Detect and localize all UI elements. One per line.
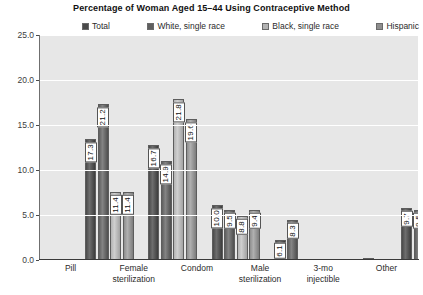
x-axis-labels: PillFemalesterilizationCondomMalesterili…	[39, 263, 418, 293]
bar[interactable]: 16.7	[148, 145, 159, 260]
x-axis-category-label: Condom	[165, 263, 228, 274]
legend-item[interactable]: Black, single race	[262, 22, 339, 31]
x-axis-label-line: sterilization	[229, 274, 292, 285]
x-axis-category-label: Malesterilization	[229, 263, 292, 284]
bar-value-label: 11.4	[122, 195, 134, 215]
bar[interactable]: 8.8	[237, 216, 248, 260]
x-axis-label-line: Male	[229, 263, 292, 274]
gridline	[39, 125, 418, 126]
bar[interactable]: 21.2	[98, 104, 109, 260]
bar-value-label: 14.9	[160, 164, 172, 184]
x-axis-label-line: 3-mo	[292, 263, 355, 274]
x-axis-label-line: Pill	[39, 263, 102, 274]
x-axis-label-line: sterilization	[102, 274, 165, 285]
legend-swatch-icon	[376, 23, 383, 30]
bar[interactable]: 14.9	[161, 161, 172, 260]
chart-title: Percentage of Woman Aged 15–44 Using Con…	[0, 3, 423, 13]
y-axis-tick-label: 10.0	[0, 165, 34, 175]
bar-value-label: 16.7	[148, 148, 160, 168]
bar-value-label: 11.4	[110, 195, 122, 215]
bar[interactable]: 17.3	[85, 139, 96, 260]
bar-group: 2.01.44.12.6	[331, 70, 394, 260]
bar-chart: Percentage of Woman Aged 15–44 Using Con…	[0, 0, 423, 295]
bar-value-label: 8.8	[236, 219, 248, 235]
legend-item[interactable]: Total	[82, 22, 110, 31]
bar[interactable]: 9.5	[414, 210, 418, 261]
bar-group: 16.714.921.819.6	[141, 70, 204, 260]
bar[interactable]: 9.5	[224, 210, 235, 261]
bar-value-label: 6.1	[274, 243, 286, 259]
gridline	[39, 35, 418, 36]
y-axis-tick-label: 20.0	[0, 75, 34, 85]
legend-item[interactable]: Hispanic	[376, 22, 419, 31]
bar[interactable]: 9.4	[249, 210, 260, 260]
bar-value-label: 9.7	[401, 211, 413, 227]
bar[interactable]: 8.3	[287, 220, 298, 260]
x-axis-category-label: Other	[355, 263, 418, 274]
bar[interactable]: 6.1	[275, 240, 286, 260]
legend-label: Hispanic	[386, 22, 419, 31]
gridline	[39, 80, 418, 81]
x-axis-category-label: Pill	[39, 263, 102, 274]
y-axis-tick	[36, 260, 39, 261]
legend-swatch-icon	[262, 23, 269, 30]
legend-swatch-icon	[147, 23, 154, 30]
chart-legend: TotalWhite, single raceBlack, single rac…	[82, 22, 419, 31]
x-axis-label-line: Condom	[165, 263, 228, 274]
bar-value-label: 21.8	[173, 102, 185, 122]
bar[interactable]: 10.0	[212, 205, 223, 260]
bar[interactable]: 11.4	[123, 192, 134, 260]
plot-area: 17.321.211.411.416.714.921.819.610.09.58…	[39, 35, 418, 260]
legend-label: Total	[92, 22, 110, 31]
bar-value-label: 17.3	[85, 142, 97, 162]
bar-group: 9.79.57.211.6	[394, 70, 418, 260]
bar[interactable]: 19.6	[186, 119, 197, 260]
bar-groups: 17.321.211.411.416.714.921.819.610.09.58…	[78, 70, 418, 260]
x-axis-category-label: 3-moinjectible	[292, 263, 355, 284]
x-axis-category-label: Femalesterilization	[102, 263, 165, 284]
x-axis-label-line: Female	[102, 263, 165, 274]
bar[interactable]: 11.4	[110, 192, 121, 260]
bar-group: 6.18.31.13.4	[268, 70, 331, 260]
bar-group: 10.09.58.89.4	[204, 70, 267, 260]
y-axis-tick-label: 5.0	[0, 210, 34, 220]
y-axis-tick-label: 15.0	[0, 120, 34, 130]
gridline	[39, 170, 418, 171]
x-axis-label-line: injectible	[292, 274, 355, 285]
y-axis-line	[39, 35, 40, 260]
bar-group: 17.321.211.411.4	[78, 70, 141, 260]
legend-label: White, single race	[157, 22, 225, 31]
x-axis-label-line: Other	[355, 263, 418, 274]
legend-item[interactable]: White, single race	[147, 22, 225, 31]
gridline	[39, 215, 418, 216]
legend-label: Black, single race	[272, 22, 339, 31]
y-axis-tick-label: 25.0	[0, 30, 34, 40]
bar-value-label: 8.3	[287, 223, 299, 239]
x-axis-line	[39, 259, 419, 260]
legend-swatch-icon	[82, 23, 89, 30]
bar[interactable]: 21.8	[173, 99, 184, 260]
bar-value-label: 10.0	[211, 208, 223, 228]
y-axis-tick-label: 0.0	[0, 255, 34, 265]
